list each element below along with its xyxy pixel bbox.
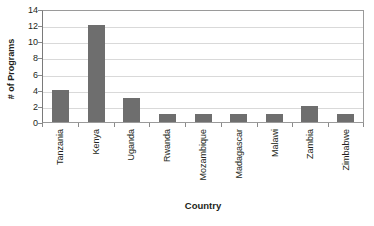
x-axis-title: Country — [42, 200, 364, 211]
bar[interactable] — [88, 25, 105, 122]
y-axis-title: # of Programs — [0, 0, 22, 138]
bar-slot — [150, 11, 186, 122]
x-axis-label-slot: Rwanda — [149, 128, 185, 196]
bar[interactable] — [230, 114, 247, 122]
x-axis-tick-mark — [114, 123, 115, 127]
x-axis-tick-mark — [149, 123, 150, 127]
bars-layer — [43, 11, 363, 122]
x-axis-tick-label: Kenya — [91, 129, 100, 155]
x-axis-tick-mark — [42, 123, 43, 127]
bar[interactable] — [266, 114, 283, 122]
x-axis-tick-label: Madagascar — [234, 129, 243, 179]
y-axis-tick-labels: 14121086420 — [20, 10, 40, 123]
x-axis-tick-mark — [221, 123, 222, 127]
x-axis-label-slot: Kenya — [78, 128, 114, 196]
y-axis-tick-label: 12 — [28, 22, 38, 31]
bar-slot — [328, 11, 364, 122]
bar-chart: # of Programs 14121086420 TanzaniaKenyaU… — [0, 0, 374, 226]
bar-slot — [256, 11, 292, 122]
y-axis-tick-label: 10 — [28, 38, 38, 47]
x-axis-tick-mark — [185, 123, 186, 127]
x-axis-tick-label: Malawi — [270, 129, 279, 157]
x-axis-tick-label: Mozambique — [199, 129, 208, 181]
x-axis-tick-mark — [78, 123, 79, 127]
plot-area — [42, 10, 364, 123]
x-axis-label-slot: Zimbabwe — [328, 128, 364, 196]
bar[interactable] — [337, 114, 354, 122]
bar[interactable] — [52, 90, 69, 122]
bar-slot — [292, 11, 328, 122]
x-axis-tick-mark — [257, 123, 258, 127]
x-axis-tick-label: Uganda — [127, 129, 136, 161]
x-axis-label-slot: Zambia — [292, 128, 328, 196]
y-axis-title-text: # of Programs — [6, 39, 16, 100]
x-axis-label-slot: Malawi — [257, 128, 293, 196]
bar-slot — [114, 11, 150, 122]
bar-slot — [185, 11, 221, 122]
bar[interactable] — [123, 98, 140, 122]
x-axis-tick-mark — [328, 123, 329, 127]
x-axis-label-slot: Mozambique — [185, 128, 221, 196]
bar-slot — [221, 11, 257, 122]
bar[interactable] — [195, 114, 212, 122]
bar[interactable] — [301, 106, 318, 122]
x-axis-label-slot: Uganda — [114, 128, 150, 196]
x-axis-label-slot: Madagascar — [221, 128, 257, 196]
x-axis-tick-mark — [292, 123, 293, 127]
x-axis-tick-labels: TanzaniaKenyaUgandaRwandaMozambiqueMadag… — [42, 128, 364, 196]
x-axis-tick-label: Rwanda — [163, 129, 172, 162]
x-axis-tick-label: Zambia — [306, 129, 315, 159]
x-axis-tick-label: Zimbabwe — [342, 129, 351, 171]
x-axis-tick-mark — [363, 123, 364, 127]
x-axis-tick-label: Tanzania — [55, 129, 64, 165]
x-axis-label-slot: Tanzania — [42, 128, 78, 196]
bar[interactable] — [159, 114, 176, 122]
bar-slot — [79, 11, 115, 122]
y-axis-tick-label: 14 — [28, 6, 38, 15]
bar-slot — [43, 11, 79, 122]
